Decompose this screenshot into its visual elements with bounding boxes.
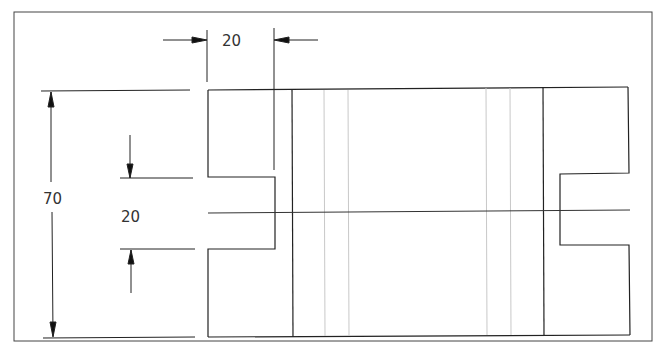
dimension-label-notch: 20 (121, 208, 140, 226)
drawing-frame (14, 12, 652, 341)
arrow-up-icon (128, 250, 134, 264)
dimension-label-height: 70 (43, 190, 62, 208)
arrow-down-icon (50, 322, 56, 337)
arrow-left-icon (274, 37, 289, 43)
center-line (208, 210, 630, 213)
arrow-right-icon (192, 37, 207, 43)
technical-drawing: 20 70 20 (0, 0, 658, 354)
section-line-left (292, 90, 293, 337)
dimension-height-70 (41, 90, 195, 338)
dimension-label-top: 20 (222, 32, 241, 50)
arrow-down-icon (127, 164, 133, 178)
arrow-up-icon (48, 92, 54, 107)
